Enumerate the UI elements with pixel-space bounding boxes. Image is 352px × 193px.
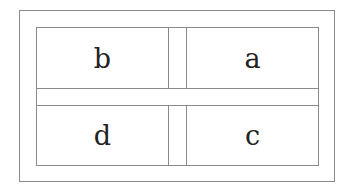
cell-bottom-right: c (187, 106, 318, 165)
divider-v-left-bottom (168, 105, 169, 166)
cell-top-right: a (187, 28, 318, 88)
divider-v-left-top (168, 27, 169, 89)
inner-bottom-border (36, 165, 319, 166)
inner-right-border (318, 27, 319, 166)
divider-h-top (36, 88, 319, 89)
cell-bottom-left: d (37, 106, 168, 165)
cell-top-left: b (37, 28, 168, 88)
